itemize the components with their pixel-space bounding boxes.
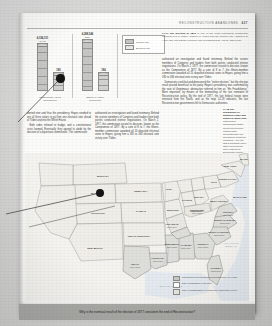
candidate-group-tilden: 4,288,546 51% 184 (82, 39, 109, 91)
bar-label-tilden-electoral: 184 (101, 69, 105, 72)
legend-swatch-popular (125, 39, 134, 44)
map-label-maine: MAINE (240, 158, 248, 161)
figure-caption: 14-17 The Election of 1876 In one of the… (162, 32, 248, 42)
candidate-group-hayes: 4,034,311 47.9% 185 (37, 43, 64, 91)
header-rule (27, 28, 248, 29)
body-column-left: denied nine and thus the presidency. Hay… (27, 112, 91, 136)
bar-tilden-electoral: 184 (98, 72, 109, 91)
map-label-kansas: KANSAS (136, 210, 146, 213)
map-label-tennessee: TENNESSEE1866 1869 (190, 209, 204, 214)
election-bar-chart-figure: 4,034,311 47.9% 185 Rutherford B. Hayes (27, 32, 159, 107)
chart-legend: Popular vote Electoral vote (122, 35, 165, 54)
bar-label-tilden-popular: 4,288,546 51% (82, 33, 94, 39)
legend-row-electoral: Electoral vote (125, 45, 162, 50)
legend-swatch-electoral (125, 45, 134, 50)
paragraph: authorized an investigation and found te… (95, 112, 159, 140)
map-label-maryland: MARYLAND (233, 196, 246, 199)
bar-tilden-popular: 4,288,546 51% (82, 39, 93, 91)
map-label-missouri: MISSOURI (167, 209, 179, 212)
legend-row-popular: Popular vote (125, 39, 162, 44)
legend-label-popular: Popular vote (136, 41, 149, 43)
margin-note-title: 14-18 The Resurgence of Southern Home an… (223, 108, 247, 120)
screenshot-viewport: RECONSTRUCTION ABANDONED 427 4,034,311 4… (0, 0, 272, 326)
paragraph: Both sides refused to budge, and a const… (27, 124, 91, 135)
running-head-title: RECONSTRUCTION ABANDONED (179, 21, 238, 25)
body-column-right-top: authorized an investigation and found te… (162, 58, 248, 107)
margin-note-text: Most former Confederate states seized go… (223, 120, 246, 154)
map-label-ohio: OHIO (211, 181, 217, 184)
paragraph: authorized an investigation and found te… (162, 58, 248, 79)
map-label-indiana: INDIANA (194, 196, 204, 199)
paragraph: Democrats cried foul and denounced the "… (162, 81, 248, 106)
map-label-alabama: ALABAMA1868 1874 (180, 244, 192, 249)
map-label-indian-territory: INDIAN TERRITORY (128, 235, 151, 238)
bar-cap (98, 72, 109, 76)
bar-label-hayes-popular: 4,034,311 47.9% (37, 37, 48, 43)
page-number: 427 (242, 21, 248, 25)
question-bar: Why is the eventual result of the electi… (19, 304, 255, 320)
candidate-name-tilden: Samuel J. Tilden (Democrat) (86, 96, 104, 102)
map-label-arkansas: ARKANSAS1868 1874 (165, 223, 178, 228)
map-label-west-virginia: WEST VIRGINIA (210, 200, 228, 203)
map-legend-label-2: Date of readmission to the Union (182, 282, 212, 285)
map-label-atlantic-ocean: ATLANTIC OCEAN (222, 242, 240, 248)
paragraph: denied nine and thus the presidency. Hay… (27, 112, 91, 123)
map-legend-swatch-3 (173, 289, 180, 294)
bar-cap (82, 39, 93, 43)
map-legend-row-3: Date of reestablishment of conservative … (173, 289, 243, 294)
map-label-illinois: ILLINOIS (182, 199, 192, 202)
map-label-colorado: COLORADO (91, 212, 105, 215)
question-text: Why is the eventual result of the electi… (79, 310, 195, 314)
map-label-new-mexico: NEW MEXICO (87, 247, 103, 250)
running-head: RECONSTRUCTION ABANDONED 427 (179, 21, 248, 25)
body-column-mid: authorized an investigation and found te… (95, 112, 159, 142)
map-label-mississippi: MISSISSIPPI1870 1876 (165, 243, 179, 248)
map-legend-label-1: Reconstruction governments and Reconstru… (182, 276, 237, 279)
map-label-virginia: VIRGINIA1870 1870 (223, 211, 234, 216)
chart-divider (72, 34, 73, 98)
reconstruction-map: .st{fill:#efeee9;stroke:#8e8e8a;stroke-w… (25, 153, 249, 301)
map-label-iowa: IOWA (166, 188, 172, 191)
callout-dot-map[interactable] (96, 189, 104, 197)
chart-plot-area: 4,034,311 47.9% 185 Rutherford B. Hayes (27, 32, 159, 102)
page-gutter-shadow (19, 13, 24, 313)
map-legend: Reconstruction governments and Reconstru… (173, 276, 243, 296)
map-legend-label-3: Date of reestablishment of conservative … (182, 289, 237, 292)
map-label-texas: TEXAS1870 1873 (130, 263, 141, 268)
map-legend-swatch-1 (173, 276, 180, 281)
map-label-nebraska: NEBRASKA (134, 190, 147, 193)
map-label-montana: MONTANA (97, 175, 109, 178)
map-label-georgia: GEORGIA1870 1871 (197, 243, 208, 248)
map-label-new-york: NEW YORK (224, 165, 237, 168)
candidate-name-hayes: Rutherford B. Hayes (Republican) (39, 96, 61, 102)
map-label-pennsylvania: PENNSYLVANIA (219, 178, 237, 181)
legend-label-electoral: Electoral vote (136, 47, 150, 49)
map-label-florida: FLORIDA1868 1877 (211, 267, 222, 272)
textbook-page: RECONSTRUCTION ABANDONED 427 4,034,311 4… (19, 13, 255, 313)
map-label-louisiana: LOUISIANA1868 1877 (151, 257, 164, 262)
map-label-south-carolina: SOUTH CAROLINA1868 1876 (208, 231, 229, 236)
map-label-north-carolina: NORTH CAROLINA1868 1870 (214, 219, 236, 224)
map-legend-row-2: Date of readmission to the Union (173, 282, 243, 287)
bar-hayes-popular: 4,034,311 47.9% (37, 43, 48, 91)
map-legend-swatch-2 (173, 282, 180, 287)
callout-dot-chart[interactable] (56, 74, 65, 83)
map-legend-row-1: Reconstruction governments and Reconstru… (173, 276, 243, 281)
bar-cap (37, 43, 48, 47)
bar-label-hayes-electoral: 185 (56, 69, 60, 72)
chart-divider (117, 34, 118, 98)
margin-note-14-18: 14-18 The Resurgence of Southern Home an… (223, 108, 248, 154)
